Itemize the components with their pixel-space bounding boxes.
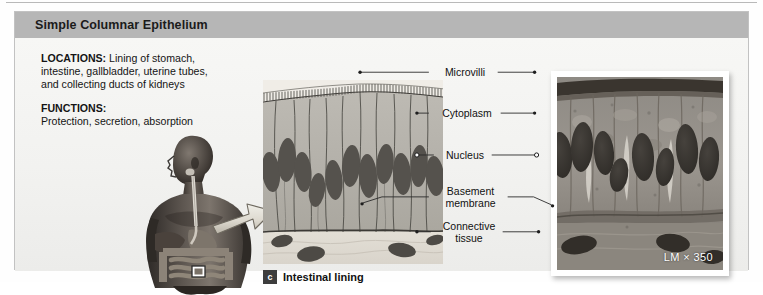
- page-title: Simple Columnar Epithelium: [35, 18, 208, 32]
- figure-header-bar: Simple Columnar Epithelium: [15, 12, 748, 38]
- figure-body: LOCATIONS: Lining of stomach, intestine,…: [15, 38, 748, 271]
- label-nucleus: Nucleus: [437, 149, 493, 161]
- top-rule: [6, 2, 757, 3]
- figure-panel: Simple Columnar Epithelium LOCATIONS: Li…: [14, 11, 749, 270]
- caption-text: Intestinal lining: [283, 271, 364, 283]
- caption-badge: c: [263, 270, 277, 284]
- label-microvilli: Microvilli: [432, 66, 498, 78]
- label-leader-lines: [15, 38, 748, 271]
- label-connective-tissue: Connective tissue: [433, 220, 505, 244]
- label-cytoplasm: Cytoplasm: [432, 107, 502, 119]
- diagram-caption: c Intestinal lining: [263, 269, 364, 285]
- label-basement-membrane: Basement membrane: [431, 185, 510, 209]
